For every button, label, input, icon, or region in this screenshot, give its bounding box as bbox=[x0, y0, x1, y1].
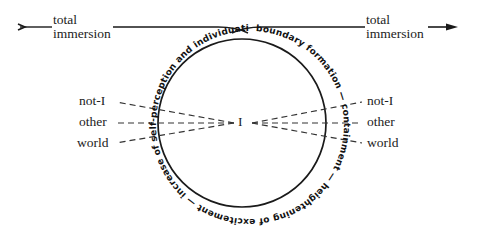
right-immersion-label: immersion bbox=[366, 27, 424, 41]
right-flow-line bbox=[232, 27, 365, 33]
center-self-label: I bbox=[238, 115, 243, 129]
left-world-label: world bbox=[77, 136, 109, 150]
right-other-label: other bbox=[367, 115, 395, 129]
left-other-label: other bbox=[79, 115, 107, 129]
right-total-label: total bbox=[366, 13, 390, 27]
right-world-label: world bbox=[367, 136, 399, 150]
right-not-i-label: not-I bbox=[367, 94, 393, 108]
left-immersion-label: immersion bbox=[53, 27, 111, 41]
right-arrowhead-icon bbox=[446, 24, 458, 31]
left-not-i-label: not-I bbox=[79, 94, 105, 108]
left-total-label: total bbox=[53, 13, 77, 27]
